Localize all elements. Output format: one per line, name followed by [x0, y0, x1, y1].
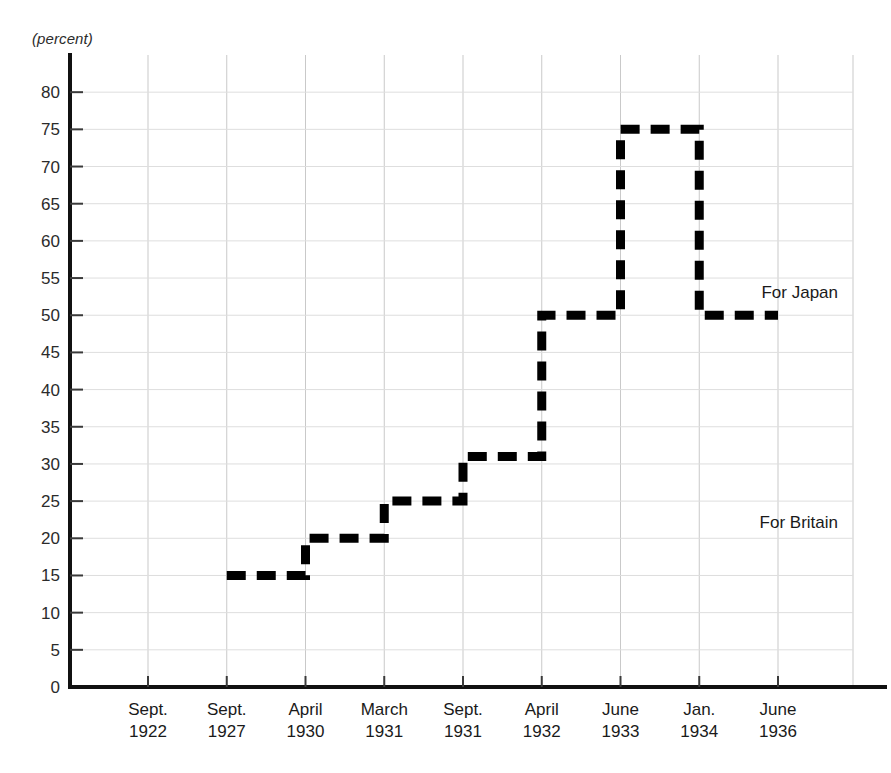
- y-axis-tick-label: 45: [16, 344, 60, 361]
- y-axis-tick-label: 75: [16, 121, 60, 138]
- y-axis-tick-label: 70: [16, 159, 60, 176]
- chart-plot-area: [0, 0, 891, 773]
- series-annotation-label: For Britain: [760, 513, 838, 533]
- horizontal-gridlines: [70, 92, 853, 650]
- series-annotation-label: For Japan: [761, 283, 838, 303]
- y-axis-tick-label: 25: [16, 493, 60, 510]
- y-axis-tick-label: 35: [16, 419, 60, 436]
- y-axis-tick-label: 10: [16, 605, 60, 622]
- x-axis-tick-year: 1936: [728, 721, 828, 743]
- y-axis-tick-label: 30: [16, 456, 60, 473]
- y-axis-tick-label: 60: [16, 233, 60, 250]
- y-axis-tick-label: 40: [16, 382, 60, 399]
- axis-lines: [68, 53, 887, 687]
- y-axis-tick-label: 15: [16, 567, 60, 584]
- y-axis-tick-label: 0: [16, 679, 60, 696]
- y-axis-tick-label: 20: [16, 530, 60, 547]
- y-axis-tick-label: 5: [16, 642, 60, 659]
- chart-container: (percent) 051015202530354045505560657075…: [0, 0, 891, 773]
- y-axis-tick-label: 50: [16, 307, 60, 324]
- vertical-gridlines: [148, 55, 853, 687]
- y-axis-tick-label: 65: [16, 196, 60, 213]
- y-axis-tick-label: 80: [16, 84, 60, 101]
- x-axis-tick-label: June1936: [728, 699, 828, 743]
- x-axis-tick-month: June: [728, 699, 828, 721]
- y-axis-tick-label: 55: [16, 270, 60, 287]
